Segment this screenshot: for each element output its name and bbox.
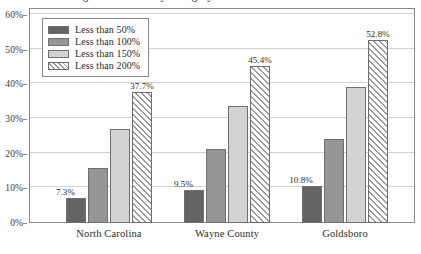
- y-axis-tick: [23, 84, 27, 85]
- bar: [324, 139, 344, 223]
- y-axis-tick-label: 20%: [5, 149, 23, 159]
- legend-swatch-icon: [48, 50, 69, 58]
- x-axis: North CarolinaWayne CountyGoldsboro: [29, 228, 415, 248]
- chart-title-clipped: Housing Cost Burden by Category: [0, 0, 421, 7]
- legend-swatch-icon: [48, 38, 69, 46]
- x-axis-category-label: Wayne County: [195, 228, 259, 239]
- bar: [346, 87, 366, 223]
- legend-item: Less than 50%: [48, 24, 140, 35]
- bar: 9.5%: [184, 190, 204, 223]
- bar: [228, 106, 248, 223]
- y-axis-tick: [23, 119, 27, 120]
- bar: [88, 168, 108, 223]
- legend-item: Less than 200%: [48, 60, 140, 71]
- bar: 45.4%: [250, 66, 270, 223]
- y-axis: 0%10%20%30%40%50%60%: [0, 8, 27, 223]
- legend-item: Less than 150%: [48, 48, 140, 59]
- bar: [206, 149, 226, 223]
- bar-value-label: 45.4%: [248, 55, 272, 65]
- bar: 7.3%: [66, 198, 86, 223]
- y-axis-tick-label: 60%: [5, 10, 23, 20]
- legend: Less than 50% Less than 100% Less than 1…: [42, 18, 149, 77]
- y-axis-tick: [23, 154, 27, 155]
- chart-title-text: Housing Cost Burden by Category: [48, 0, 213, 1]
- y-axis-tick-label: 30%: [5, 114, 23, 124]
- y-axis-tick-label: 0%: [10, 218, 23, 228]
- bar: 10.8%: [302, 186, 322, 223]
- bar-value-label: 52.8%: [366, 29, 390, 39]
- y-axis-tick: [23, 15, 27, 16]
- bar-value-label: 37.7%: [130, 81, 154, 91]
- legend-item-label: Less than 200%: [75, 60, 140, 71]
- bar: [110, 129, 130, 223]
- bar-chart: Housing Cost Burden by Category 0%10%20%…: [0, 0, 421, 254]
- bar-group: 10.8%52.8%: [302, 8, 388, 223]
- bar: 52.8%: [368, 40, 388, 223]
- bar: 37.7%: [132, 92, 152, 223]
- bar-value-label: 7.3%: [56, 187, 75, 197]
- x-axis-category-label: North Carolina: [76, 228, 141, 239]
- y-axis-tick-label: 40%: [5, 79, 23, 89]
- legend-swatch-icon: [48, 26, 69, 34]
- x-axis-category-label: Goldsboro: [322, 228, 368, 239]
- legend-swatch-icon: [48, 62, 69, 70]
- bar-value-label: 10.8%: [289, 175, 313, 185]
- y-axis-tick: [23, 50, 27, 51]
- legend-item-label: Less than 100%: [75, 36, 140, 47]
- bar-value-label: 9.5%: [174, 179, 193, 189]
- y-axis-tick: [23, 188, 27, 189]
- legend-item: Less than 100%: [48, 36, 140, 47]
- y-axis-tick: [23, 223, 27, 224]
- y-axis-tick-label: 50%: [5, 45, 23, 55]
- bar-group: 9.5%45.4%: [184, 8, 270, 223]
- y-axis-tick-label: 10%: [5, 183, 23, 193]
- legend-item-label: Less than 50%: [75, 24, 135, 35]
- legend-item-label: Less than 150%: [75, 48, 140, 59]
